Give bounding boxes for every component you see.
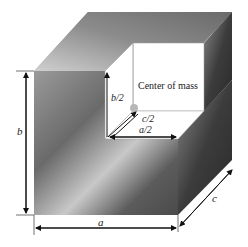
label-c-half: c/2: [142, 113, 154, 124]
block-diagram: b a c b/2 c/2 a/2 Center of mass: [0, 0, 248, 247]
label-b: b: [17, 125, 23, 137]
label-c: c: [212, 192, 217, 204]
label-b-half: b/2: [111, 92, 124, 103]
label-center-of-mass: Center of mass: [138, 80, 198, 91]
center-of-mass-point: [130, 104, 138, 112]
cutout-back-wall: [133, 43, 204, 111]
label-a-half: a/2: [139, 124, 152, 135]
label-a: a: [98, 216, 104, 228]
